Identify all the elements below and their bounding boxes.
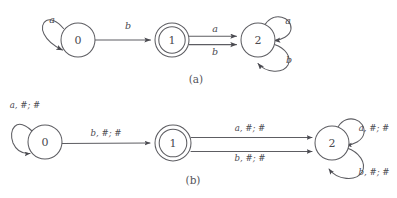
b-self-loop-0-label: a, #; # <box>10 100 41 110</box>
a-state-2-label: 2 <box>255 34 262 47</box>
a-state-1-label: 1 <box>169 34 176 47</box>
caption-a: (a) <box>189 73 203 85</box>
automata-figure: 0 1 2 a b a b a b (a) <box>0 0 397 198</box>
a-self-loop-2-a-label: a <box>285 15 291 26</box>
a-self-loop-2-b-label: b <box>286 54 292 65</box>
b-self-loop-2-a-label: a, #; # <box>359 123 390 133</box>
b-edge-1-to-2-a-label: a, #; # <box>235 123 266 133</box>
b-self-loop-2-b-label: b, #; # <box>359 167 390 177</box>
b-state-1[interactable]: 1 <box>155 125 191 161</box>
a-edge-0-to-1-label: b <box>125 20 131 31</box>
b-state-1-label: 1 <box>170 137 177 150</box>
b-state-2-label: 2 <box>329 137 336 150</box>
b-edge-1-to-2-b-label: b, #; # <box>235 153 266 163</box>
b-edge-0-to-1-path <box>62 143 150 144</box>
b-edge-0-to-1-label: b, #; # <box>91 128 122 138</box>
diagram-b: 0 1 2 a, #; # b, #; # a, #; # b, #; # a,… <box>10 100 390 187</box>
caption-b: (b) <box>186 174 201 186</box>
figure-root: 0 1 2 a b a b a b (a) <box>0 0 397 198</box>
a-self-loop-0-label: a <box>49 14 55 25</box>
b-state-2[interactable]: 2 <box>315 126 349 160</box>
a-state-2[interactable]: 2 <box>241 23 275 57</box>
a-state-1[interactable]: 1 <box>155 23 189 57</box>
a-state-0-label: 0 <box>75 34 82 47</box>
a-edge-1-to-2-b-label: b <box>212 46 218 57</box>
a-edge-1-to-2-a-label: a <box>212 23 218 34</box>
a-state-0[interactable]: 0 <box>61 23 95 57</box>
diagram-a: 0 1 2 a b a b a b (a) <box>42 14 292 86</box>
b-state-0[interactable]: 0 <box>28 125 62 159</box>
b-state-0-label: 0 <box>42 136 49 149</box>
